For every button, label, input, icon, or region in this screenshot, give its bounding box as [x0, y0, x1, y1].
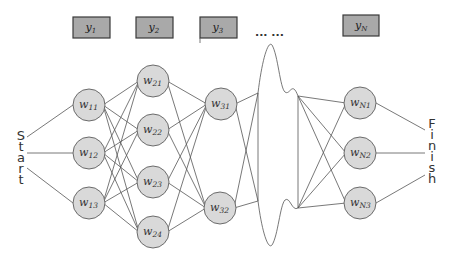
- edge: [376, 103, 425, 130]
- edge: [298, 96, 346, 103]
- edge: [167, 104, 207, 130]
- node-wN1: wN1: [344, 87, 376, 119]
- edge: [298, 153, 346, 208]
- edge: [167, 182, 206, 208]
- edge: [376, 175, 425, 203]
- edge: [298, 96, 346, 203]
- node-wN2: wN2: [344, 137, 376, 169]
- ellipsis-wave: [258, 44, 298, 246]
- edge: [167, 104, 207, 232]
- edge: [27, 105, 73, 137]
- node-w13: w13: [73, 187, 105, 219]
- edge: [234, 201, 258, 208]
- node-w11: w11: [73, 89, 105, 121]
- node-w22: w22: [137, 114, 169, 146]
- svg-text:h: h: [428, 171, 436, 186]
- edge: [103, 81, 139, 105]
- trellis-diagram: y1y2y3yN w11w12w13w21w22w23w24w31w32wN1w…: [0, 0, 450, 265]
- node-w31: w31: [205, 88, 237, 120]
- edge: [234, 93, 258, 208]
- svg-text:t: t: [18, 172, 23, 187]
- edge: [27, 168, 73, 203]
- node-w32: w32: [204, 192, 236, 224]
- edge: [103, 203, 139, 232]
- output-box-y2: y2: [136, 17, 173, 38]
- edge: [235, 93, 258, 104]
- node-w23: w23: [137, 166, 169, 198]
- node-wN3: wN3: [344, 187, 376, 219]
- nodes: w11w12w13w21w22w23w24w31w32wN1wN2wN3: [73, 65, 376, 248]
- output-boxes: y1y2y3yN: [73, 15, 379, 43]
- edge: [103, 153, 139, 182]
- edge: [298, 203, 346, 208]
- edge: [167, 208, 206, 232]
- finish-label: Finish: [428, 116, 436, 186]
- edge: [298, 103, 346, 208]
- node-w21: w21: [137, 65, 169, 97]
- start-label: Start: [17, 128, 25, 187]
- network-svg: y1y2y3yN w11w12w13w21w22w23w24w31w32wN1w…: [0, 0, 450, 265]
- node-w24: w24: [137, 216, 169, 248]
- edge: [103, 105, 139, 232]
- output-box-y1: y1: [73, 17, 110, 38]
- output-box-yN: yN: [343, 15, 379, 36]
- output-box-y3: y3: [200, 17, 237, 38]
- node-w12: w12: [73, 137, 105, 169]
- edge: [298, 96, 346, 153]
- ellipsis-text: ... ...: [255, 26, 284, 39]
